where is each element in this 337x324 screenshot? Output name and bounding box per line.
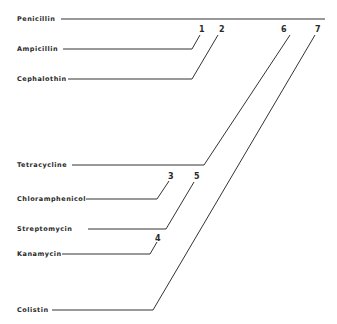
colistin-connector-line <box>52 35 315 310</box>
number-chloramphenicol: 3 <box>168 172 174 181</box>
branch-cephalothin: Cephalothin2 <box>17 25 225 83</box>
label-tetracycline: Tetracycline <box>17 161 67 169</box>
number-cephalothin: 2 <box>219 25 225 34</box>
label-cephalothin: Cephalothin <box>17 75 67 83</box>
root-penicillin: Penicillin <box>17 15 325 23</box>
branch-colistin: Colistin7 <box>17 25 321 314</box>
number-tetracycline: 6 <box>281 25 287 34</box>
ampicillin-connector-line <box>63 35 200 49</box>
number-kanamycin: 4 <box>155 234 161 243</box>
label-colistin: Colistin <box>17 306 49 314</box>
branch-kanamycin: Kanamycin4 <box>17 234 161 258</box>
branches: Ampicillin1Cephalothin2Tetracycline6Chlo… <box>17 25 321 314</box>
antibiotic-resistance-diagram: Penicillin Ampicillin1Cephalothin2Tetrac… <box>0 0 337 324</box>
number-streptomycin: 5 <box>194 172 200 181</box>
branch-ampicillin: Ampicillin1 <box>17 25 205 53</box>
label-ampicillin: Ampicillin <box>17 45 58 53</box>
number-colistin: 7 <box>315 25 321 34</box>
label-chloramphenicol: Chloramphenicol <box>17 195 86 203</box>
label-kanamycin: Kanamycin <box>17 250 62 258</box>
branch-chloramphenicol: Chloramphenicol3 <box>17 172 174 203</box>
tetracycline-connector-line <box>72 35 290 165</box>
label-penicillin: Penicillin <box>17 15 55 23</box>
label-streptomycin: Streptomycin <box>17 225 72 233</box>
streptomycin-connector-line <box>88 182 194 229</box>
cephalothin-connector-line <box>68 35 218 79</box>
kanamycin-connector-line <box>62 242 157 254</box>
number-ampicillin: 1 <box>199 25 205 34</box>
chloramphenicol-connector-line <box>86 181 169 199</box>
